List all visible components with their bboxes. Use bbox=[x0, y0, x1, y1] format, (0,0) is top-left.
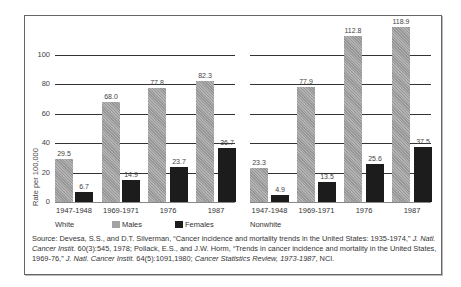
source-citation: Source: Devesa, S.S., and D.T. Silverman… bbox=[32, 234, 437, 264]
bar-nonwhite-males-1 bbox=[297, 87, 315, 202]
baseline bbox=[55, 202, 235, 203]
x-category-label: 1947-1948 bbox=[49, 206, 99, 215]
y-tick-60: 60 bbox=[30, 109, 50, 118]
baseline bbox=[250, 202, 431, 203]
report-title: Cancer Statistics Review, 1973-1987 bbox=[195, 254, 316, 263]
bar-value-label: 77.9 bbox=[291, 78, 321, 86]
bar-nonwhite-males-2 bbox=[344, 36, 362, 202]
bar-value-label: 77.8 bbox=[142, 79, 172, 87]
x-category-label: 1976 bbox=[143, 206, 193, 215]
bar-value-label: 29.5 bbox=[49, 150, 79, 158]
x-category-label: 1969-1971 bbox=[292, 206, 342, 215]
source-text: , NCI. bbox=[315, 254, 334, 263]
panel-label-nonwhite: Nonwhite bbox=[250, 220, 281, 229]
bar-white-females-2 bbox=[170, 167, 188, 202]
gridline-100 bbox=[55, 55, 235, 56]
bar-value-label: 25.6 bbox=[360, 155, 390, 163]
source-text: Source: Devesa, S.S., and D.T. Silverman… bbox=[32, 234, 412, 243]
bar-white-males-1 bbox=[102, 102, 120, 202]
bar-value-label: 4.9 bbox=[265, 186, 295, 194]
bar-value-label: 13.5 bbox=[312, 173, 342, 181]
bar-white-males-0 bbox=[55, 159, 73, 202]
bar-nonwhite-females-1 bbox=[318, 182, 336, 202]
bar-value-label: 23.3 bbox=[244, 159, 274, 167]
bar-white-males-2 bbox=[148, 88, 166, 202]
bar-value-label: 36.7 bbox=[212, 139, 242, 147]
bar-white-females-1 bbox=[122, 180, 140, 202]
x-category-label: 1969-1971 bbox=[96, 206, 146, 215]
bar-value-label: 118.9 bbox=[386, 18, 416, 26]
bar-value-label: 112.8 bbox=[338, 27, 368, 35]
bar-value-label: 37.5 bbox=[408, 138, 438, 146]
source-text: 64(5):1091,1980; bbox=[134, 254, 194, 263]
y-tick-40: 40 bbox=[30, 138, 50, 147]
x-category-label: 1987 bbox=[191, 206, 241, 215]
bar-nonwhite-females-2 bbox=[366, 164, 384, 202]
panel-label-white: White bbox=[55, 220, 74, 229]
legend-label-males: Males bbox=[122, 220, 142, 229]
y-axis-label: Rate per 100,000 bbox=[31, 148, 40, 206]
legend-swatch-males bbox=[112, 221, 120, 228]
bar-value-label: 14.9 bbox=[116, 171, 146, 179]
journal-title: J. Natl. Cancer Instit. bbox=[66, 254, 135, 263]
x-category-label: 1947-1948 bbox=[245, 206, 295, 215]
legend-swatch-females bbox=[175, 221, 183, 228]
legend-label-females: Females bbox=[185, 220, 214, 229]
x-category-label: 1987 bbox=[387, 206, 437, 215]
y-tick-100: 100 bbox=[30, 50, 50, 59]
bar-value-label: 82.3 bbox=[190, 72, 220, 80]
bar-white-females-0 bbox=[75, 192, 93, 202]
bar-white-females-3 bbox=[218, 148, 236, 202]
y-tick-80: 80 bbox=[30, 79, 50, 88]
bar-value-label: 68.0 bbox=[96, 93, 126, 101]
bar-value-label: 23.7 bbox=[164, 158, 194, 166]
bar-nonwhite-females-3 bbox=[414, 147, 432, 202]
x-category-label: 1976 bbox=[339, 206, 389, 215]
bar-value-label: 6.7 bbox=[69, 183, 99, 191]
bar-nonwhite-females-0 bbox=[271, 195, 289, 202]
bar-nonwhite-males-3 bbox=[392, 27, 410, 202]
